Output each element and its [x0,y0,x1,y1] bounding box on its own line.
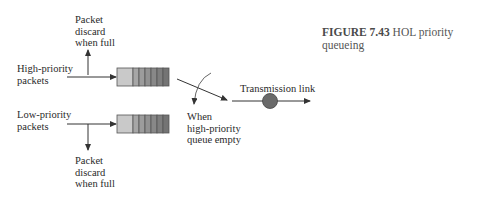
queue-cell [139,115,145,133]
figure-title-1: HOL priority [393,26,454,38]
figure-title-2: queueing [322,39,364,51]
condition-label: When high-priority queue empty [187,111,241,146]
low-priority-queue [117,115,169,133]
high-priority-queue [117,68,169,86]
server-circle [263,94,278,109]
high-priority-line-2: packets [17,75,73,87]
queue-cell [163,115,169,133]
condition-line-1: When [187,111,241,123]
bottom-discard-line-2: discard [75,167,115,179]
queue-cell [163,68,169,86]
high-to-link-arrow [177,79,227,100]
condition-line-2: high-priority [187,123,241,135]
high-priority-line-1: High-priority [17,63,73,75]
queue-cell [139,68,145,86]
transmission-link-label: Transmission link [240,83,315,95]
queue-cell [133,68,139,86]
queue-cell [117,115,133,133]
queue-cell [133,115,139,133]
switch-arc [194,73,211,104]
high-priority-label: High-priority packets [17,63,73,86]
top-discard-line-1: Packet [75,14,115,26]
top-discard-line-3: when full [75,37,115,49]
bottom-discard-line-1: Packet [75,155,115,167]
figure-caption: FIGURE 7.43 HOL priority queueing [322,26,480,52]
queue-cell [145,68,151,86]
top-discard-line-2: discard [75,26,115,38]
queue-cell [145,115,151,133]
queue-cell [157,68,163,86]
queue-cell [117,68,133,86]
bottom-discard-label: Packet discard when full [75,155,115,190]
bottom-discard-line-3: when full [75,178,115,190]
low-priority-line-1: Low-priority [17,109,71,121]
condition-line-3: queue empty [187,134,241,146]
low-priority-label: Low-priority packets [17,109,71,132]
top-discard-label: Packet discard when full [75,14,115,49]
figure-number: FIGURE 7.43 [322,26,390,38]
queue-cell [151,115,157,133]
queue-cell [157,115,163,133]
queue-cell [151,68,157,86]
low-priority-line-2: packets [17,121,71,133]
